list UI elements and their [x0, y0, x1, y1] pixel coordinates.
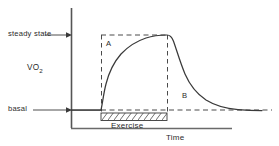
steady-state-axis-label: steady state [8, 30, 51, 38]
y-axis-title-subscript: 2 [39, 67, 43, 74]
y-axis-title: VO2 [27, 64, 43, 74]
x-axis-title: Time [166, 134, 184, 142]
basal-pointer-arrow [33, 107, 72, 113]
vo2-exercise-response-figure: steady state basal VO2 A B Exercise Time [0, 0, 279, 146]
region-b-label: B [182, 92, 187, 100]
exercise-period-bar [101, 113, 167, 121]
vo2-response-curve [71, 35, 262, 111]
region-a-label: A [106, 40, 111, 48]
y-axis-title-text: VO [27, 63, 39, 72]
exercise-bar-label: Exercise [111, 122, 143, 130]
basal-axis-label: basal [8, 105, 27, 113]
